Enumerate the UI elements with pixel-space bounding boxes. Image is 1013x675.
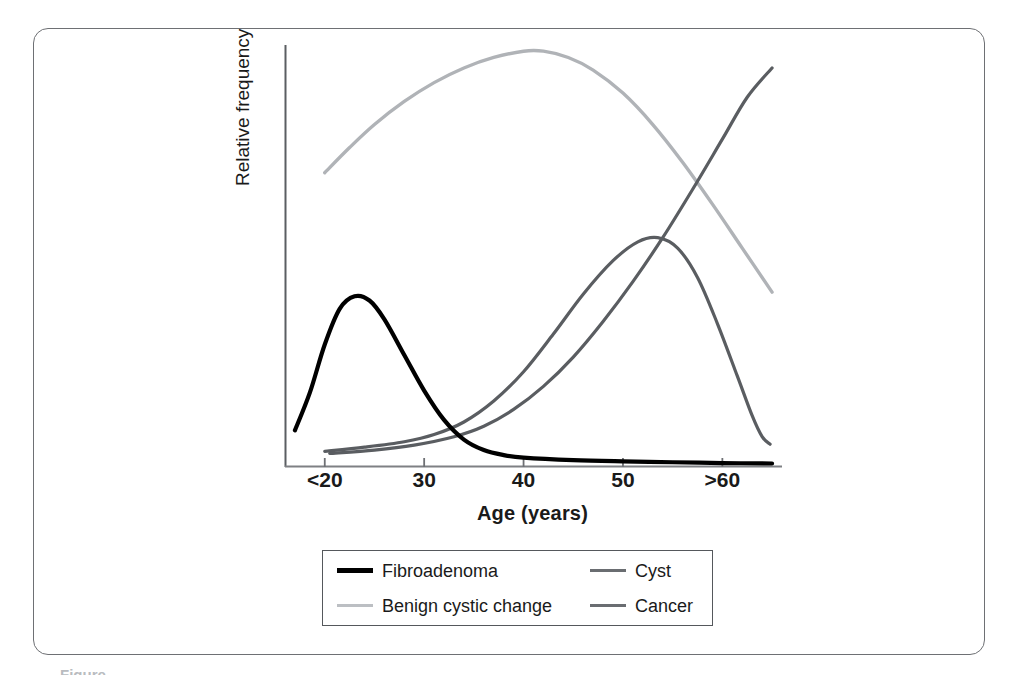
- x-axis-tick-label: >60: [682, 468, 762, 492]
- legend-item-label: Cancer: [635, 597, 693, 615]
- legend-item-label: Cyst: [635, 562, 671, 580]
- legend-item-label: Benign cystic change: [382, 597, 552, 615]
- legend-line-swatch: [590, 604, 626, 607]
- legend-item-label: Fibroadenoma: [382, 562, 498, 580]
- legend-item-benign-cystic-change[interactable]: Benign cystic change: [323, 597, 576, 615]
- x-axis-tick-label: 50: [583, 468, 663, 492]
- x-axis-tick-label: <20: [285, 468, 365, 492]
- chart-legend: FibroadenomaCystBenign cystic changeCanc…: [322, 550, 713, 626]
- legend-line-swatch: [337, 604, 373, 607]
- legend-line-swatch: [337, 568, 373, 573]
- x-axis-tick-label: 40: [484, 468, 564, 492]
- legend-item-cyst[interactable]: Cyst: [576, 562, 714, 580]
- x-axis-title: Age (years): [285, 502, 780, 525]
- y-axis-title-text: Relative frequency: [232, 29, 254, 186]
- figure-caption-sliver: Figure: [60, 666, 106, 675]
- legend-item-fibroadenoma[interactable]: Fibroadenoma: [323, 562, 576, 580]
- legend-item-cancer[interactable]: Cancer: [576, 597, 714, 615]
- x-axis-tick-label: 30: [384, 468, 464, 492]
- legend-line-swatch: [590, 569, 626, 572]
